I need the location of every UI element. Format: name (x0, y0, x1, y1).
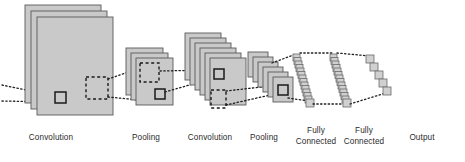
label-convolution-1: Convolution (8, 133, 94, 144)
cnn-architecture-figure: Convolution Pooling Convolution Pooling … (0, 0, 465, 162)
label-output: Output (392, 133, 452, 144)
convolution-1-receptive-field (55, 92, 66, 103)
layer-pooling-1 (126, 48, 173, 105)
layer-convolution-2 (185, 33, 246, 108)
layer-output (366, 55, 391, 95)
label-fully-connected-2: Fully Connected (330, 126, 398, 147)
pooling-1-receptive-field (155, 89, 165, 99)
convolution-2-receptive-field (214, 69, 224, 79)
layer-pooling-2 (248, 52, 293, 102)
layer-fully-connected-2 (330, 54, 351, 107)
layer-convolution-1 (25, 5, 113, 115)
pooling-2-receptive-field (278, 85, 288, 95)
